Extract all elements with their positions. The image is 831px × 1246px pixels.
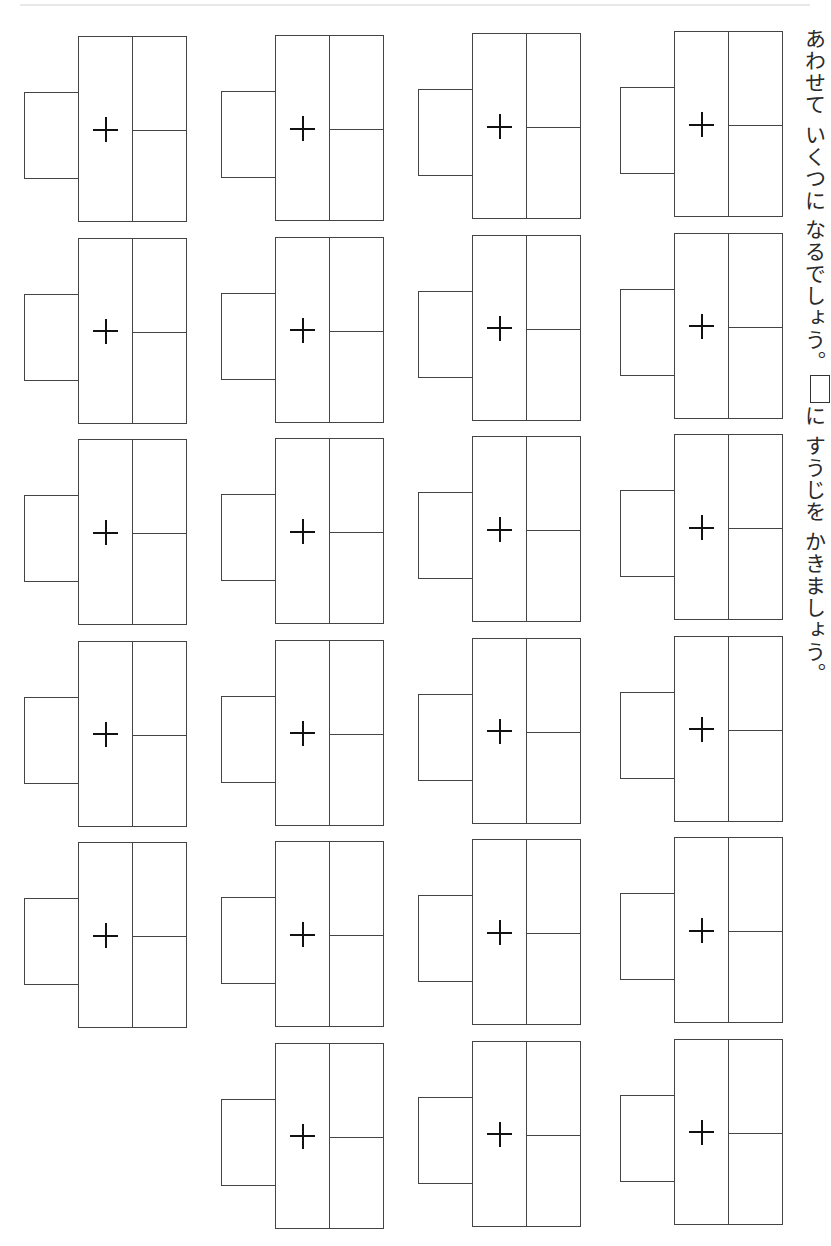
- addend-bottom-cell[interactable]: [133, 736, 186, 826]
- number-bond-box: [674, 1039, 783, 1225]
- answer-box[interactable]: [221, 696, 276, 783]
- answer-box[interactable]: [221, 91, 276, 178]
- addend-top-cell[interactable]: [330, 1044, 383, 1137]
- addend-bottom-cell[interactable]: [330, 936, 383, 1026]
- plus-sign-icon: [689, 717, 714, 742]
- plus-sign-icon: [689, 918, 714, 943]
- addend-top-cell[interactable]: [133, 642, 186, 735]
- plus-sign-icon: [93, 319, 118, 344]
- addition-problem: [418, 33, 583, 223]
- addend-bottom-cell[interactable]: [330, 735, 383, 825]
- number-bond-box: [674, 31, 783, 217]
- addend-top-cell[interactable]: [330, 439, 383, 532]
- addend-top-cell[interactable]: [729, 838, 782, 931]
- addend-top-cell[interactable]: [133, 239, 186, 332]
- addend-top-cell[interactable]: [729, 637, 782, 730]
- addend-top-cell[interactable]: [729, 435, 782, 528]
- answer-box[interactable]: [24, 92, 79, 179]
- addend-bottom-cell[interactable]: [729, 328, 782, 418]
- answer-box[interactable]: [24, 294, 79, 381]
- answer-box[interactable]: [418, 89, 473, 176]
- answer-box[interactable]: [620, 490, 675, 577]
- addend-bottom-cell[interactable]: [133, 131, 186, 221]
- addend-bottom-cell[interactable]: [729, 126, 782, 216]
- addend-top-cell[interactable]: [133, 843, 186, 936]
- addend-top-cell[interactable]: [729, 32, 782, 125]
- addend-bottom-cell[interactable]: [330, 533, 383, 623]
- addend-top-cell[interactable]: [527, 1042, 580, 1135]
- plus-sign-icon: [290, 116, 315, 141]
- addition-problem: [418, 235, 583, 425]
- addition-problem: [620, 233, 785, 423]
- addend-top-cell[interactable]: [330, 641, 383, 734]
- addend-top-cell[interactable]: [729, 234, 782, 327]
- answer-box[interactable]: [620, 692, 675, 779]
- addend-bottom-cell[interactable]: [729, 1134, 782, 1224]
- number-bond-box: [275, 237, 384, 423]
- answer-box[interactable]: [620, 289, 675, 376]
- addend-top-cell[interactable]: [729, 1040, 782, 1133]
- addition-problem: [221, 841, 386, 1031]
- addend-top-cell[interactable]: [133, 440, 186, 533]
- answer-box[interactable]: [418, 1097, 473, 1184]
- answer-box[interactable]: [221, 897, 276, 984]
- number-bond-box: [78, 641, 187, 827]
- number-bond-box: [78, 439, 187, 625]
- addition-problem: [24, 238, 189, 428]
- addend-bottom-cell[interactable]: [133, 937, 186, 1027]
- addend-bottom-cell[interactable]: [527, 934, 580, 1024]
- addend-bottom-cell[interactable]: [527, 733, 580, 823]
- addend-top-cell[interactable]: [527, 236, 580, 329]
- addend-bottom-cell[interactable]: [527, 128, 580, 218]
- addend-top-cell[interactable]: [133, 37, 186, 130]
- addend-bottom-cell[interactable]: [729, 529, 782, 619]
- number-bond-box: [674, 434, 783, 620]
- addend-bottom-cell[interactable]: [527, 531, 580, 621]
- answer-box[interactable]: [221, 494, 276, 581]
- number-bond-box: [275, 438, 384, 624]
- plus-sign-icon: [290, 318, 315, 343]
- answer-box[interactable]: [24, 898, 79, 985]
- addend-bottom-cell[interactable]: [527, 1136, 580, 1226]
- instruction-part-1: あわせて いくつに なるでしょう。: [802, 28, 826, 373]
- answer-box[interactable]: [418, 291, 473, 378]
- addend-top-cell[interactable]: [330, 238, 383, 331]
- addend-bottom-cell[interactable]: [729, 731, 782, 821]
- addend-top-cell[interactable]: [527, 840, 580, 933]
- answer-box[interactable]: [418, 694, 473, 781]
- answer-box[interactable]: [418, 895, 473, 982]
- answer-box[interactable]: [418, 492, 473, 579]
- addend-bottom-cell[interactable]: [527, 330, 580, 420]
- addition-problem: [620, 1039, 785, 1229]
- addition-problem: [418, 1041, 583, 1231]
- addition-problem: [620, 837, 785, 1027]
- answer-box[interactable]: [24, 697, 79, 784]
- addend-top-cell[interactable]: [330, 36, 383, 129]
- plus-sign-icon: [290, 1124, 315, 1149]
- addition-problem: [221, 35, 386, 225]
- addend-bottom-cell[interactable]: [330, 1138, 383, 1228]
- answer-box[interactable]: [221, 293, 276, 380]
- answer-box[interactable]: [620, 87, 675, 174]
- addition-problem: [221, 237, 386, 427]
- number-bond-box: [472, 436, 581, 622]
- addend-bottom-cell[interactable]: [133, 534, 186, 624]
- addition-problem: [24, 842, 189, 1032]
- addend-bottom-cell[interactable]: [330, 332, 383, 422]
- addend-bottom-cell[interactable]: [330, 130, 383, 220]
- addend-top-cell[interactable]: [330, 842, 383, 935]
- addend-bottom-cell[interactable]: [133, 333, 186, 423]
- addend-bottom-cell[interactable]: [729, 932, 782, 1022]
- number-bond-box: [472, 1041, 581, 1227]
- addend-top-cell[interactable]: [527, 34, 580, 127]
- addition-problem: [418, 436, 583, 626]
- plus-sign-icon: [487, 316, 512, 341]
- answer-box[interactable]: [620, 1095, 675, 1182]
- addend-top-cell[interactable]: [527, 639, 580, 732]
- addend-top-cell[interactable]: [527, 437, 580, 530]
- answer-box[interactable]: [221, 1099, 276, 1186]
- answer-box[interactable]: [620, 893, 675, 980]
- addition-problem: [24, 641, 189, 831]
- number-bond-box: [674, 636, 783, 822]
- answer-box[interactable]: [24, 495, 79, 582]
